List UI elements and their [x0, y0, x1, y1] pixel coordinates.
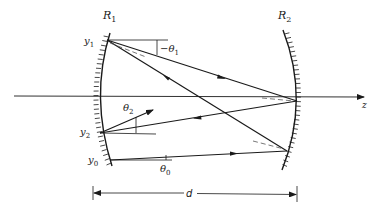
arrow-ray-r2-y1	[163, 75, 170, 81]
distance-dimension	[93, 186, 297, 202]
svg-text:θ0: θ0	[160, 163, 171, 177]
ray-direction-arrows	[163, 75, 238, 156]
dimension-line-right	[197, 194, 296, 195]
ray-y0-to-r2	[110, 151, 287, 160]
mirror-r1-label: R1	[102, 9, 116, 24]
svg-text:z: z	[361, 100, 367, 110]
horizontal-ref-y2	[100, 133, 156, 134]
mirror-r2-label: R2	[277, 9, 291, 24]
svg-text:y0: y0	[87, 154, 98, 168]
arrow-ray-y0-r2	[230, 152, 238, 156]
svg-text:d: d	[186, 188, 193, 199]
angle-theta1-label: −θ1	[160, 43, 179, 57]
ray-paths	[100, 40, 297, 160]
distance-d-label: d	[186, 188, 193, 199]
optical-axis	[14, 96, 364, 97]
arrow-ray-y1-r2	[217, 75, 226, 80]
mirror-r1	[94, 33, 113, 166]
point-y2-label: y2	[79, 126, 90, 140]
resonator-diagram: R1 R2 y1 y2 y0 −θ1 θ2 θ0 z d	[0, 0, 381, 211]
point-y0-label: y0	[87, 154, 98, 168]
ray-y1-to-r2	[107, 40, 297, 101]
svg-text:y1: y1	[83, 35, 94, 49]
point-y1-label: y1	[83, 35, 94, 49]
svg-text:R1: R1	[102, 9, 116, 24]
ray-r2-to-y1	[107, 40, 287, 151]
ray-y2-out	[100, 110, 153, 133]
axis-z-label: z	[361, 100, 367, 110]
svg-text:−θ1: −θ1	[160, 43, 179, 57]
svg-text:y2: y2	[79, 126, 90, 140]
angle-theta0-label: θ0	[160, 163, 171, 177]
svg-text:R2: R2	[277, 9, 291, 24]
svg-text:θ2: θ2	[123, 102, 134, 116]
angle-theta2-label: θ2	[123, 102, 134, 116]
